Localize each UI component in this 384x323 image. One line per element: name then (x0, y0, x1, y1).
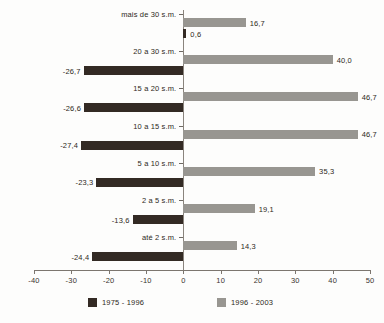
category-tick (179, 51, 183, 52)
bar-group: 2 a 5 s.m.19,1-13,6 (0, 200, 384, 237)
bar-value-label: -23,3 (0, 178, 93, 187)
category-tick (179, 88, 183, 89)
bar-1996-2003 (183, 18, 245, 27)
category-tick (179, 163, 183, 164)
x-tick (109, 270, 110, 274)
legend-item[interactable]: 1975 - 1996 (88, 298, 144, 307)
category-label: mais de 30 s.m. (121, 10, 176, 19)
x-tick-label: -20 (103, 276, 114, 285)
category-tick (179, 237, 183, 238)
x-tick-label: -30 (66, 276, 77, 285)
bar-1975-1996 (81, 141, 183, 150)
bar-group: 10 a 15 s.m.46,7-27,4 (0, 126, 384, 163)
bar-1975-1996 (84, 103, 183, 112)
category-tick (179, 14, 183, 15)
bar-1996-2003 (183, 92, 357, 101)
bar-group: 15 a 20 s.m.46,7-26,6 (0, 88, 384, 125)
x-tick-label: 40 (328, 276, 337, 285)
bar-value-label: 35,3 (319, 167, 334, 176)
x-tick-label: 20 (254, 276, 263, 285)
bar-group: até 2 s.m.14,3-24,4 (0, 237, 384, 274)
x-tick-label: -10 (140, 276, 151, 285)
legend-swatch-icon (217, 298, 226, 307)
x-tick-label: -40 (28, 276, 39, 285)
bar-value-label: -24,4 (0, 253, 89, 262)
bar-value-label: -13,6 (0, 216, 130, 225)
bar-1975-1996 (96, 178, 183, 187)
category-label: 2 a 5 s.m. (142, 196, 176, 205)
chart-legend: 1975 - 19961996 - 2003 (0, 296, 384, 316)
bar-value-label: 19,1 (259, 205, 274, 214)
bar-chart: mais de 30 s.m.16,70,620 a 30 s.m.40,0-2… (0, 0, 384, 323)
legend-label: 1996 - 2003 (231, 298, 273, 307)
x-tick (146, 270, 147, 274)
legend-item[interactable]: 1996 - 2003 (217, 298, 273, 307)
x-tick-label: 30 (291, 276, 300, 285)
x-tick (333, 270, 334, 274)
x-tick (221, 270, 222, 274)
bar-group: mais de 30 s.m.16,70,6 (0, 14, 384, 51)
bar-value-label: 46,7 (362, 93, 377, 102)
x-tick (370, 270, 371, 274)
bar-1996-2003 (183, 130, 357, 139)
bar-value-label: 16,7 (250, 19, 265, 28)
bar-value-label: 40,0 (337, 56, 352, 65)
category-label: 10 a 15 s.m. (133, 122, 176, 131)
x-tick-label: 10 (216, 276, 225, 285)
category-label: 15 a 20 s.m. (133, 84, 176, 93)
category-label: 5 a 10 s.m. (138, 159, 177, 168)
bar-1975-1996 (133, 215, 184, 224)
bar-1975-1996 (84, 66, 184, 75)
legend-swatch-icon (88, 298, 97, 307)
bar-group: 5 a 10 s.m.35,3-23,3 (0, 163, 384, 200)
x-axis-line (34, 270, 370, 271)
x-tick (295, 270, 296, 274)
x-tick (183, 270, 184, 274)
legend-label: 1975 - 1996 (102, 298, 144, 307)
bar-value-label: -26,7 (0, 67, 81, 76)
x-tick-label: 50 (366, 276, 375, 285)
bar-1975-1996 (183, 29, 186, 38)
bar-value-label: 14,3 (241, 242, 256, 251)
x-tick (71, 270, 72, 274)
bar-1996-2003 (183, 204, 254, 213)
x-tick (258, 270, 259, 274)
plot-area: mais de 30 s.m.16,70,620 a 30 s.m.40,0-2… (0, 6, 384, 276)
bar-1996-2003 (183, 167, 315, 176)
bar-value-label: -27,4 (0, 141, 78, 150)
bar-1996-2003 (183, 55, 332, 64)
bar-group: 20 a 30 s.m.40,0-26,7 (0, 51, 384, 88)
bar-value-label: 0,6 (190, 30, 201, 39)
category-label: até 2 s.m. (142, 233, 176, 242)
category-tick (179, 126, 183, 127)
bar-1975-1996 (92, 252, 183, 261)
x-tick (34, 270, 35, 274)
category-label: 20 a 30 s.m. (133, 47, 176, 56)
category-tick (179, 200, 183, 201)
bar-value-label: 46,7 (362, 130, 377, 139)
bar-1996-2003 (183, 241, 236, 250)
bar-value-label: -26,6 (0, 104, 81, 113)
x-tick-label: 0 (181, 276, 185, 285)
